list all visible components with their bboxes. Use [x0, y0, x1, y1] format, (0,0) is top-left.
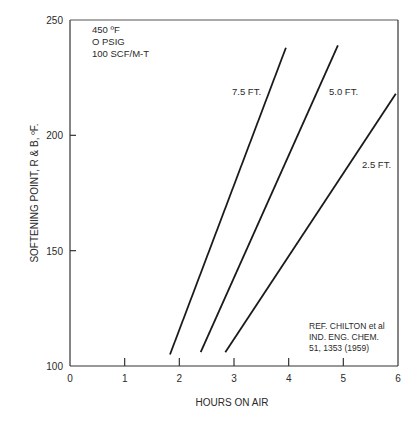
x-tick-label: 0 — [67, 373, 73, 384]
y-tick-label: 200 — [46, 130, 63, 141]
x-tick-label: 6 — [395, 373, 401, 384]
softening-point-chart: 100150200250 0123456 7.5 FT. 5.0 FT. 2.5… — [0, 0, 414, 421]
series-lines — [170, 45, 396, 354]
y-tick-label: 150 — [46, 246, 63, 257]
reference-line-2: IND. ENG. CHEM. — [309, 332, 379, 342]
x-axis-ticks: 0123456 — [67, 358, 401, 384]
y-axis-title: SOFTENING POINT, R & B, ºF. — [29, 123, 40, 262]
reference-annotation: REF. CHILTON et al IND. ENG. CHEM. 51, 1… — [309, 321, 385, 353]
series-label-2-5ft: 2.5 FT. — [362, 159, 391, 170]
y-tick-label: 100 — [46, 361, 63, 372]
reference-line-1: REF. CHILTON et al — [309, 321, 385, 331]
x-tick-label: 5 — [341, 373, 347, 384]
y-axis-ticks: 100150200250 — [46, 15, 76, 372]
series-line-25ft — [225, 94, 395, 352]
reference-line-3: 51, 1353 (1959) — [309, 343, 369, 353]
series-label-5-0ft: 5.0 FT. — [329, 86, 358, 97]
conditions-annotation: 450 ºF O PSIG 100 SCF/M-T — [92, 24, 149, 59]
condition-flow: 100 SCF/M-T — [92, 48, 149, 59]
x-tick-label: 2 — [177, 373, 183, 384]
x-axis-title: HOURS ON AIR — [196, 397, 269, 408]
x-tick-label: 4 — [286, 373, 292, 384]
x-tick-label: 3 — [231, 373, 237, 384]
plot-frame — [70, 20, 398, 366]
series-label-7-5ft: 7.5 FT. — [232, 86, 261, 97]
condition-pressure: O PSIG — [92, 36, 125, 47]
condition-temperature: 450 ºF — [92, 24, 120, 35]
x-tick-label: 1 — [122, 373, 128, 384]
y-tick-label: 250 — [46, 15, 63, 26]
